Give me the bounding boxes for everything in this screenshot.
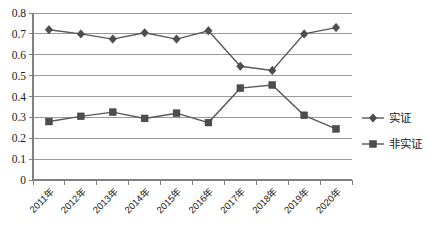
legend-label: 非实证 xyxy=(389,137,423,150)
y-axis-tick-label: 0.1 xyxy=(12,153,27,165)
y-axis-tick-label: 0.3 xyxy=(12,111,27,123)
series-1 xyxy=(45,23,340,74)
legend-label: 实证 xyxy=(389,111,412,124)
x-axis-tick-label: 2020年 xyxy=(314,186,344,216)
data-point xyxy=(77,113,84,120)
series-2 xyxy=(46,82,340,133)
legend-marker-diamond xyxy=(369,114,376,123)
data-point xyxy=(46,118,53,125)
legend-marker-square xyxy=(370,141,377,148)
data-point xyxy=(173,110,180,117)
data-point xyxy=(141,29,148,38)
data-point xyxy=(269,82,276,89)
legend: 实证非实证 xyxy=(362,111,423,150)
chart-canvas: 0.80.70.60.50.40.30.20.102011年2012年2013年… xyxy=(0,0,434,231)
x-axis-tick-label: 2015年 xyxy=(154,186,184,216)
y-axis-tick-label: 0.4 xyxy=(12,91,27,103)
data-point xyxy=(77,30,84,39)
y-axis-tick-label: 0.6 xyxy=(12,49,27,61)
series-line xyxy=(49,85,336,129)
x-axis-tick-label: 2017年 xyxy=(218,186,248,216)
y-axis-tick-label: 0 xyxy=(20,174,26,186)
line-chart: 0.80.70.60.50.40.30.20.102011年2012年2013年… xyxy=(0,0,434,231)
data-point xyxy=(237,85,244,92)
legend-item[interactable]: 实证 xyxy=(362,111,412,124)
data-point xyxy=(45,25,52,34)
data-point xyxy=(301,112,308,119)
legend-item[interactable]: 非实证 xyxy=(362,137,423,150)
x-axis-tick-label: 2013年 xyxy=(90,186,120,216)
x-axis-labels-group: 2011年2012年2013年2014年2015年2016年2017年2018年… xyxy=(27,186,343,216)
x-axis-tick-label: 2014年 xyxy=(122,186,152,216)
data-point xyxy=(141,115,148,122)
x-axis-tick-label: 2011年 xyxy=(27,186,56,215)
x-axis-tick-label: 2018年 xyxy=(250,186,280,216)
data-point xyxy=(173,35,180,44)
data-point xyxy=(332,23,339,32)
y-axis-tick-label: 0.5 xyxy=(12,70,27,82)
y-axis-tick-label: 0.8 xyxy=(12,7,27,19)
x-axis-tick-label: 2019年 xyxy=(282,186,312,216)
data-point xyxy=(333,125,340,132)
y-axis-tick-label: 0.2 xyxy=(12,132,27,144)
data-point xyxy=(109,35,116,44)
x-axis-tick-label: 2012年 xyxy=(58,186,88,216)
data-point xyxy=(109,109,116,116)
x-axis-tick-label: 2016年 xyxy=(186,186,216,216)
y-axis-tick-label: 0.7 xyxy=(12,28,27,40)
data-point xyxy=(205,119,212,126)
